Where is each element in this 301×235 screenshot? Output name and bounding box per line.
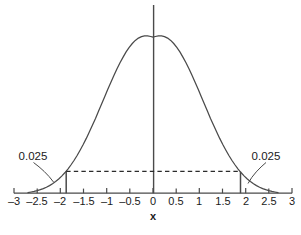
x-axis-title: x	[150, 211, 156, 222]
x-tick-label-0: 0	[150, 196, 156, 207]
x-tick-label-3: 3	[289, 196, 295, 207]
x-tick-label--3: –3	[8, 196, 20, 207]
x-tick-label--1: –1	[101, 196, 113, 207]
x-tick-label--2.5: –2.5	[26, 196, 47, 207]
x-tick-label--2: –2	[54, 196, 66, 207]
right-tail-area-label: 0.025	[252, 150, 281, 162]
x-tick-label--1.5: –1.5	[73, 196, 94, 207]
left-tail-area-label: 0.025	[19, 150, 48, 162]
x-tick-label--0.5: –0.5	[119, 196, 140, 207]
x-tick-label-2: 2	[243, 196, 249, 207]
normal-distribution-figure: 0.025 0.025 –3 –2.5 –2 –1.5 –1 –0.5 0 0.…	[0, 0, 301, 235]
x-tick-label-2.5: 2.5	[261, 196, 276, 207]
left-annotation-leader-line	[34, 163, 54, 183]
right-annotation-leader-line	[248, 163, 266, 184]
x-tick-label-1: 1	[196, 196, 202, 207]
x-tick-label-1.5: 1.5	[215, 196, 230, 207]
x-tick-label-0.5: 0.5	[168, 196, 183, 207]
